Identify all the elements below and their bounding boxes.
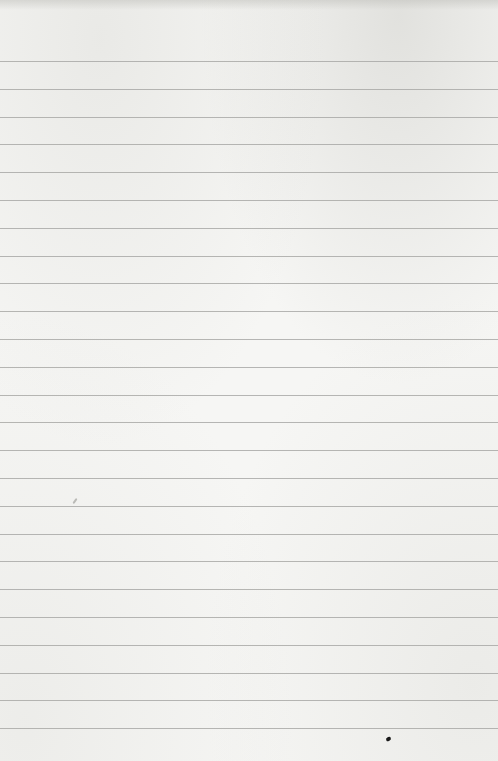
ruled-line [0, 561, 498, 562]
ruled-line [0, 617, 498, 618]
ruled-line [0, 506, 498, 507]
ruled-line [0, 367, 498, 368]
ruled-line [0, 172, 498, 173]
ruled-line [0, 395, 498, 396]
ruled-line [0, 144, 498, 145]
ruled-line [0, 450, 498, 451]
ruled-line [0, 283, 498, 284]
ruled-line [0, 589, 498, 590]
ruled-line [0, 256, 498, 257]
paper-top-edge-shadow [0, 0, 498, 10]
smudge-mark [72, 498, 77, 504]
ruled-line [0, 728, 498, 729]
ruled-line [0, 200, 498, 201]
ruled-line [0, 228, 498, 229]
ruled-line [0, 339, 498, 340]
lined-paper-sheet [0, 0, 498, 761]
ruled-line [0, 61, 498, 62]
ruled-line [0, 117, 498, 118]
ruled-line [0, 645, 498, 646]
ruled-line [0, 534, 498, 535]
ruled-line [0, 478, 498, 479]
ruled-line [0, 311, 498, 312]
ink-speck-mark [385, 736, 391, 742]
ruled-line [0, 422, 498, 423]
ruled-line [0, 700, 498, 701]
ruled-line [0, 673, 498, 674]
ruled-line [0, 89, 498, 90]
